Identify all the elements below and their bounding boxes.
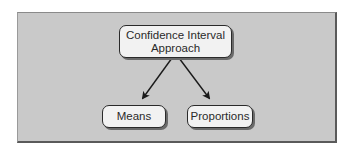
arrow-to-proportions bbox=[179, 58, 209, 98]
child-node-means: Means bbox=[102, 105, 166, 128]
root-node-label-line1: Confidence Interval bbox=[126, 29, 225, 42]
means-label: Means bbox=[117, 110, 152, 123]
root-node-label-line2: Approach bbox=[126, 42, 225, 55]
arrow-to-means bbox=[143, 58, 172, 98]
child-node-proportions: Proportions bbox=[187, 105, 253, 128]
root-node-confidence-interval-approach: Confidence Interval Approach bbox=[119, 25, 232, 58]
connector-arrows bbox=[0, 0, 358, 153]
proportions-label: Proportions bbox=[191, 110, 250, 123]
